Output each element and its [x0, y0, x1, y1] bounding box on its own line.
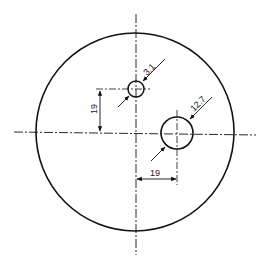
horizontal-dimension-label: 19 — [150, 168, 160, 178]
outer-circle — [36, 33, 234, 231]
large-hole-leader-bottom — [151, 147, 165, 161]
small-hole-diameter-label: 3.1 — [141, 61, 157, 77]
drawing: 3.1 12.7 19 19 — [0, 0, 269, 267]
horizontal-centerline — [14, 132, 256, 135]
vertical-dimension-label: 19 — [89, 104, 99, 114]
large-hole-diameter-label: 12.7 — [188, 94, 207, 113]
small-hole-leader-bottom — [118, 96, 129, 107]
